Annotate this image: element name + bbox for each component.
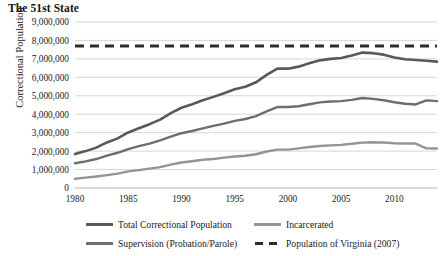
legend-item-virginia-population[interactable]: Population of Virginia (2007) [254, 239, 438, 249]
y-tick-label-3: 3,000,000 [32, 128, 70, 138]
y-tick-label-8: 8,000,000 [32, 36, 70, 46]
x-tick-label-0: 1980 [66, 194, 85, 204]
legend-label-total: Total Correctional Population [118, 220, 232, 230]
legend-swatch-supervision [86, 239, 113, 248]
y-tick-label-6: 6,000,000 [32, 73, 70, 83]
series-line-0 [75, 53, 437, 154]
x-tick-label-6: 2010 [385, 194, 404, 204]
legend-label-virginia-population: Population of Virginia (2007) [286, 239, 399, 249]
y-tick-label-0: 0 [64, 183, 69, 193]
legend-item-total[interactable]: Total Correctional Population [86, 220, 254, 230]
legend-label-supervision: Supervision (Probation/Parole) [118, 239, 237, 249]
legend-swatch-incarcerated [254, 220, 281, 229]
legend-swatch-virginia-population [254, 239, 281, 248]
x-tick-label-5: 2005 [332, 194, 351, 204]
x-tick-label-1: 1985 [119, 194, 138, 204]
chart-legend: Total Correctional Population Incarcerat… [86, 215, 438, 253]
legend-item-supervision[interactable]: Supervision (Probation/Parole) [86, 239, 254, 249]
y-tick-label-4: 4,000,000 [32, 110, 70, 120]
x-tick-label-4: 2000 [279, 194, 298, 204]
x-tick-label-2: 1990 [172, 194, 191, 204]
y-tick-label-7: 7,000,000 [32, 54, 70, 64]
chart-figure: The 51st State Correctional Population 0… [0, 0, 442, 256]
y-tick-label-5: 5,000,000 [32, 91, 70, 101]
legend-item-incarcerated[interactable]: Incarcerated [254, 220, 438, 230]
y-tick-label-1: 1,000,000 [32, 165, 70, 175]
legend-label-incarcerated: Incarcerated [286, 220, 333, 230]
legend-swatch-total [86, 220, 113, 229]
y-tick-label-9: 9,000,000 [32, 17, 70, 27]
x-tick-label-3: 1995 [225, 194, 244, 204]
y-tick-label-2: 2,000,000 [32, 147, 70, 157]
